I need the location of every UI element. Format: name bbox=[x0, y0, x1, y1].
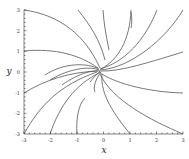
x-tick-label: -1 bbox=[75, 137, 80, 143]
trajectory bbox=[102, 74, 130, 134]
x-tick-label: 0 bbox=[102, 137, 105, 143]
axes bbox=[24, 10, 183, 134]
y-tick-label: -1 bbox=[15, 90, 20, 96]
x-axis-label: x bbox=[101, 145, 106, 155]
y-tick-label: 0 bbox=[17, 69, 20, 75]
x-tick-label: -3 bbox=[22, 137, 27, 143]
trajectory bbox=[45, 65, 99, 75]
trajectory bbox=[99, 72, 183, 93]
trajectory bbox=[77, 98, 85, 134]
x-tick-label: 1 bbox=[128, 137, 131, 143]
trajectory bbox=[101, 10, 131, 69]
x-tick-label: 3 bbox=[181, 137, 184, 143]
y-tick-label: 1 bbox=[17, 48, 20, 54]
phase-portrait-chart: 3 2 1 0 -1 -2 -3 -3 -2 -1 0 1 2 3 x y bbox=[0, 0, 189, 159]
x-minor-ticks bbox=[24, 132, 183, 135]
x-tick-label: -2 bbox=[48, 137, 53, 143]
trajectory bbox=[100, 74, 183, 134]
y-tick-label: 3 bbox=[17, 7, 20, 13]
trajectory bbox=[100, 10, 157, 69]
plot-area: 3 2 1 0 -1 -2 -3 -3 -2 -1 0 1 2 3 x y bbox=[0, 0, 189, 159]
trajectory bbox=[103, 10, 109, 50]
y-axis-label: y bbox=[5, 66, 12, 76]
trajectory bbox=[24, 10, 100, 68]
y-tick-label: 2 bbox=[17, 28, 20, 34]
trajectory bbox=[131, 12, 132, 28]
y-tick-label: -2 bbox=[15, 110, 20, 116]
x-tick-labels: -3 -2 -1 0 1 2 3 bbox=[22, 137, 185, 143]
y-tick-labels: 3 2 1 0 -1 -2 -3 bbox=[15, 7, 20, 137]
trajectories bbox=[24, 10, 183, 134]
y-minor-ticks bbox=[24, 10, 27, 130]
x-tick-label: 2 bbox=[155, 137, 158, 143]
y-tick-label: -3 bbox=[15, 131, 20, 137]
